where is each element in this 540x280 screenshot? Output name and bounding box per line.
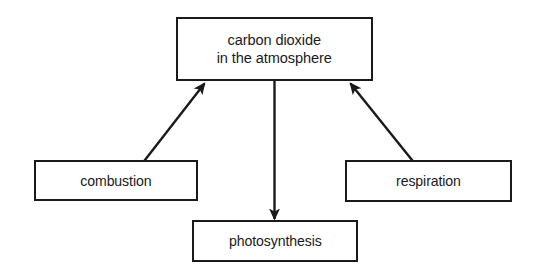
node-carbon-dioxide-label: carbon dioxide in the atmosphere <box>217 31 332 67</box>
node-combustion-label: combustion <box>80 172 151 190</box>
node-respiration-label: respiration <box>396 172 461 190</box>
diagram-canvas: carbon dioxide in the atmosphere combust… <box>0 0 540 280</box>
node-photosynthesis: photosynthesis <box>192 220 358 262</box>
node-combustion: combustion <box>34 160 198 201</box>
edge-respiration-to-co2 <box>351 84 415 163</box>
node-respiration: respiration <box>345 160 512 202</box>
node-carbon-dioxide: carbon dioxide in the atmosphere <box>176 17 373 81</box>
node-photosynthesis-label: photosynthesis <box>229 232 322 250</box>
edge-combustion-to-co2 <box>143 84 205 163</box>
